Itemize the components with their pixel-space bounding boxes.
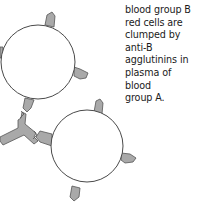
caption-line-5: agglutinins in bbox=[125, 54, 188, 65]
caption-line-1: blood group B bbox=[125, 4, 191, 15]
antibody-y bbox=[0, 112, 38, 145]
red-cell-1 bbox=[1, 25, 75, 99]
caption-line-7: group A. bbox=[125, 92, 165, 103]
figure-caption: blood group B red cells are clumped by a… bbox=[125, 4, 199, 105]
caption-line-6: plasma of blood bbox=[125, 67, 171, 91]
caption-line-4: anti-B bbox=[125, 42, 153, 53]
red-cell-2 bbox=[51, 110, 123, 182]
caption-line-3: clumped by bbox=[125, 29, 180, 40]
caption-line-2: red cells are bbox=[125, 17, 183, 28]
